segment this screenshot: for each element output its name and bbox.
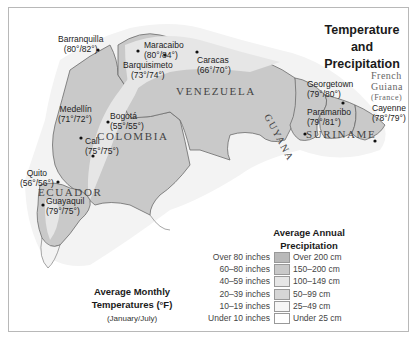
legend-inches: 10–19 inches bbox=[219, 301, 270, 311]
temperature-heading-1: Average Monthly bbox=[82, 285, 182, 298]
legend-inches: 20–39 inches bbox=[219, 289, 270, 299]
legend-cm: Under 25 cm bbox=[293, 313, 342, 323]
legend-row: Over 80 inchesOver 200 cm bbox=[200, 252, 410, 263]
french-guiana-line2: Guiana bbox=[371, 81, 403, 92]
legend-swatch bbox=[274, 313, 290, 324]
city-label-barquisimeto: Barquisimeto (73°/74°) bbox=[123, 60, 173, 80]
city-name: Caracas bbox=[197, 55, 231, 65]
city-name: Georgetown bbox=[307, 79, 353, 89]
country-label-venezuela: VENEZUELA bbox=[176, 85, 256, 97]
city-label-bogota: Bogotá (55°/55°) bbox=[110, 111, 144, 131]
legend-row: 40–59 inches100–149 cm bbox=[200, 276, 410, 287]
legend-row: Under 10 inchesUnder 25 cm bbox=[200, 313, 410, 324]
temperature-subtitle: (January/July) bbox=[82, 314, 182, 323]
city-name: Bogotá bbox=[110, 111, 144, 121]
city-label-medellin: Medellín (71°/72°) bbox=[58, 104, 92, 124]
legend-inches: Over 80 inches bbox=[213, 252, 270, 262]
legend-cm: Over 200 cm bbox=[293, 252, 342, 262]
french-guiana-line3: (France) bbox=[371, 92, 403, 103]
legend-cm: 150–200 cm bbox=[293, 264, 340, 274]
legend-row: 60–80 inches150–200 cm bbox=[200, 264, 410, 275]
legend-swatch bbox=[274, 276, 290, 287]
legend-swatch bbox=[274, 264, 290, 275]
temperature-note: Average Monthly Temperatures (°F) (Janua… bbox=[82, 285, 182, 323]
city-temps: (71°/72°) bbox=[58, 114, 92, 124]
city-temps: (66°/70°) bbox=[197, 65, 231, 75]
city-temps: (80°/84°) bbox=[144, 50, 184, 60]
city-temps: (75°/75°) bbox=[85, 146, 119, 156]
city-temps: (73°/74°) bbox=[123, 70, 173, 80]
city-label-maracaibo: Maracaibo (80°/84°) bbox=[144, 40, 184, 60]
country-label-colombia: COLOMBIA bbox=[97, 130, 168, 142]
city-name: Maracaibo bbox=[144, 40, 184, 50]
city-name: Barranquilla bbox=[58, 34, 103, 44]
country-label-ecuador: ECUADOR bbox=[38, 186, 102, 198]
title-line-1: Temperature and bbox=[314, 22, 410, 56]
city-name: Paramaribo bbox=[307, 107, 351, 117]
city-label-barranquilla: Barranquilla (80°/82°) bbox=[58, 34, 103, 54]
legend-row: 20–39 inches50–99 cm bbox=[200, 289, 410, 300]
legend-inches: Under 10 inches bbox=[208, 313, 270, 323]
french-guiana-line1: French bbox=[371, 70, 403, 81]
country-label-french-guiana: French Guiana (France) bbox=[371, 70, 403, 103]
legend-swatch bbox=[274, 252, 290, 263]
legend-inches: 60–80 inches bbox=[219, 264, 270, 274]
map-title: Temperature and Precipitation bbox=[314, 22, 410, 73]
legend-heading-1: Average Annual bbox=[208, 226, 410, 239]
city-name: Medellín bbox=[58, 104, 92, 114]
legend-swatch bbox=[274, 301, 290, 312]
temperature-heading-2: Temperatures (°F) bbox=[82, 298, 182, 311]
city-label-paramaribo: Paramaribo (79°/81°) bbox=[307, 107, 351, 127]
city-name: Cayenne bbox=[372, 103, 406, 113]
precipitation-legend: Average Annual Precipitation bbox=[200, 226, 410, 252]
city-label-caracas: Caracas (66°/70°) bbox=[197, 55, 231, 75]
city-temps: (79°/80°) bbox=[307, 89, 353, 99]
city-label-cayenne: Cayenne (78°/79°) bbox=[372, 103, 406, 123]
legend-cm: 25–49 cm bbox=[293, 301, 330, 311]
legend-row: 10–19 inches25–49 cm bbox=[200, 301, 410, 312]
city-temps: (78°/79°) bbox=[372, 113, 406, 123]
city-name: Barquisimeto bbox=[123, 60, 173, 70]
country-label-suriname: SURINAME bbox=[306, 128, 376, 140]
city-temps: (79°/81°) bbox=[307, 117, 351, 127]
legend-heading-2: Precipitation bbox=[208, 239, 410, 252]
legend-swatch bbox=[274, 289, 290, 300]
city-temps: (80°/82°) bbox=[58, 44, 103, 54]
legend-cm: 100–149 cm bbox=[293, 276, 340, 286]
city-name: Quito bbox=[20, 168, 54, 178]
legend-cm: 50–99 cm bbox=[293, 289, 330, 299]
city-temps: (79°/75°) bbox=[46, 206, 84, 216]
city-label-quito: Quito (56°/56°) bbox=[20, 168, 54, 188]
legend-inches: 40–59 inches bbox=[219, 276, 270, 286]
city-label-guayaquil: Guayaquil (79°/75°) bbox=[46, 196, 84, 216]
city-label-georgetown: Georgetown (79°/80°) bbox=[307, 79, 353, 99]
